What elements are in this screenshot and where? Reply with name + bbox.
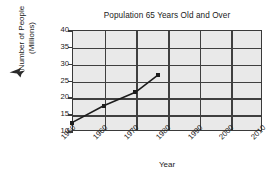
y-axis-title-line-1: Number of People bbox=[17, 6, 28, 70]
chart-figure: Population 65 Years Old and Over 1015202… bbox=[0, 0, 279, 178]
data-point bbox=[102, 104, 106, 108]
data-point bbox=[70, 121, 74, 125]
y-tick-mark bbox=[68, 114, 73, 116]
y-tick-mark bbox=[68, 47, 73, 49]
y-tick-mark bbox=[68, 97, 73, 99]
data-point bbox=[156, 73, 160, 77]
y-axis-tick-labels: 10152025303540 bbox=[52, 30, 69, 131]
data-line bbox=[72, 30, 262, 131]
y-tick-mark bbox=[68, 131, 73, 133]
y-tick-mark bbox=[68, 64, 73, 66]
pointer-arrow-icon bbox=[8, 65, 28, 81]
chart-title: Population 65 Years Old and Over bbox=[72, 11, 262, 21]
y-tick-mark bbox=[68, 30, 73, 32]
x-axis-title: Year bbox=[72, 160, 262, 170]
y-tick-mark bbox=[68, 81, 73, 83]
data-point bbox=[133, 90, 137, 94]
data-series-layer bbox=[72, 30, 262, 131]
y-axis-title-line-2: (Millions) bbox=[27, 22, 38, 54]
